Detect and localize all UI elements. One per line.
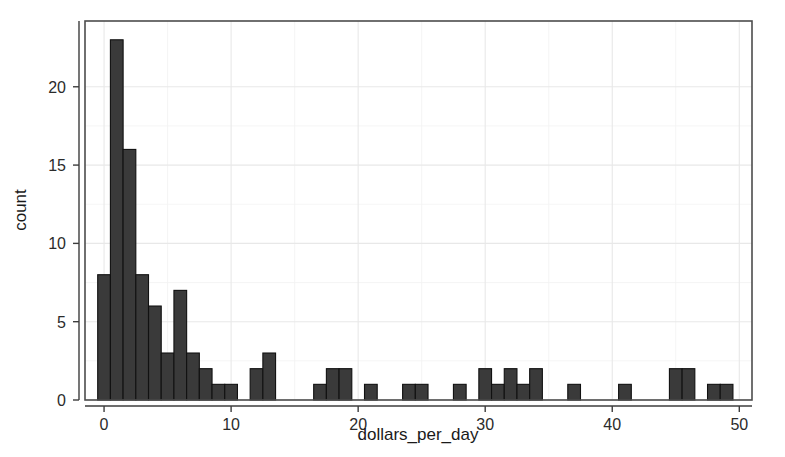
histogram-bar [149,306,162,400]
x-tick-label: 10 [222,416,240,433]
histogram-bar [250,369,263,400]
histogram-bar [517,384,530,400]
histogram-bar [504,369,517,400]
histogram-bar [110,40,123,400]
histogram-bar [530,369,543,400]
histogram-bar [263,353,276,400]
histogram-bar [479,369,492,400]
histogram-bar [326,369,339,400]
histogram-chart: 01020304050 05101520 dollars_per_day cou… [0,0,785,457]
histogram-bar [568,384,581,400]
histogram-bar [136,275,149,400]
x-tick-label: 50 [730,416,748,433]
y-tick-label: 15 [48,157,66,174]
chart-canvas: 01020304050 05101520 dollars_per_day cou… [0,0,785,457]
histogram-bar [161,353,174,400]
x-tick-label: 0 [100,416,109,433]
histogram-bar [187,353,200,400]
histogram-bar [212,384,225,400]
x-tick-label: 30 [476,416,494,433]
histogram-bar [682,369,695,400]
histogram-bar [492,384,505,400]
histogram-bar [199,369,212,400]
histogram-bar [403,384,416,400]
histogram-bar [365,384,378,400]
histogram-bar [98,275,111,400]
histogram-bar [225,384,238,400]
histogram-bar [619,384,632,400]
histogram-bar [123,149,136,400]
histogram-bar [415,384,428,400]
histogram-bar [708,384,721,400]
histogram-bar [669,369,682,400]
histogram-bar [314,384,327,400]
x-tick-label: 40 [603,416,621,433]
y-tick-label: 0 [57,392,66,409]
histogram-bar [174,290,187,400]
x-axis-label: dollars_per_day [358,425,479,444]
y-tick-label: 10 [48,235,66,252]
histogram-bar [720,384,733,400]
y-tick-label: 20 [48,79,66,96]
y-axis-label: count [11,189,30,231]
y-tick-label: 5 [57,314,66,331]
histogram-bar [453,384,466,400]
histogram-bar [339,369,352,400]
